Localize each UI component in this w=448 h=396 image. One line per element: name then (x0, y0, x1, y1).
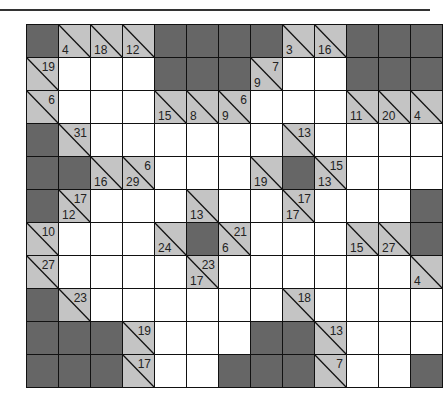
clue-cell: 11 (347, 91, 378, 123)
clue-cell: 19 (123, 322, 154, 354)
entry-cell[interactable] (251, 289, 282, 321)
entry-cell[interactable] (219, 289, 250, 321)
entry-cell[interactable] (123, 289, 154, 321)
entry-cell[interactable] (379, 355, 410, 387)
entry-cell[interactable] (315, 58, 346, 90)
entry-cell[interactable] (283, 58, 314, 90)
entry-cell[interactable] (315, 256, 346, 288)
entry-cell[interactable] (315, 223, 346, 255)
entry-cell[interactable] (251, 223, 282, 255)
entry-cell[interactable] (187, 322, 218, 354)
entry-cell[interactable] (347, 289, 378, 321)
entry-cell[interactable] (91, 289, 122, 321)
entry-cell[interactable] (187, 289, 218, 321)
down-clue: 4 (62, 44, 69, 56)
entry-cell[interactable] (379, 256, 410, 288)
entry-cell[interactable] (219, 124, 250, 156)
entry-cell[interactable] (379, 289, 410, 321)
entry-cell[interactable] (91, 190, 122, 222)
entry-cell[interactable] (123, 256, 154, 288)
across-clue: 18 (298, 292, 311, 304)
block-cell (219, 355, 250, 387)
entry-cell[interactable] (315, 91, 346, 123)
across-clue: 7 (272, 61, 279, 73)
entry-cell[interactable] (283, 256, 314, 288)
clue-cell: 96 (219, 91, 250, 123)
entry-cell[interactable] (283, 91, 314, 123)
entry-cell[interactable] (219, 256, 250, 288)
across-clue: 13 (330, 325, 343, 337)
entry-cell[interactable] (155, 289, 186, 321)
across-clue: 6 (240, 94, 247, 106)
entry-cell[interactable] (315, 190, 346, 222)
clue-cell: 4 (411, 256, 442, 288)
block-cell (411, 25, 442, 57)
entry-cell[interactable] (59, 223, 90, 255)
across-clue: 7 (336, 358, 343, 370)
entry-cell[interactable] (283, 223, 314, 255)
entry-cell[interactable] (155, 355, 186, 387)
down-clue: 13 (318, 176, 331, 188)
block-cell (283, 322, 314, 354)
entry-cell[interactable] (251, 91, 282, 123)
entry-cell[interactable] (379, 157, 410, 189)
entry-cell[interactable] (251, 190, 282, 222)
entry-cell[interactable] (91, 91, 122, 123)
down-clue: 16 (94, 176, 107, 188)
entry-cell[interactable] (155, 190, 186, 222)
entry-cell[interactable] (155, 157, 186, 189)
entry-cell[interactable] (411, 124, 442, 156)
clue-cell: 4 (59, 25, 90, 57)
down-clue: 19 (254, 176, 267, 188)
entry-cell[interactable] (251, 124, 282, 156)
entry-cell[interactable] (347, 157, 378, 189)
entry-cell[interactable] (59, 91, 90, 123)
down-clue: 18 (94, 44, 107, 56)
entry-cell[interactable] (347, 124, 378, 156)
clue-cell: 1217 (59, 190, 90, 222)
entry-cell[interactable] (123, 91, 154, 123)
entry-cell[interactable] (187, 157, 218, 189)
entry-cell[interactable] (315, 124, 346, 156)
entry-cell[interactable] (155, 256, 186, 288)
entry-cell[interactable] (91, 256, 122, 288)
across-clue: 6 (144, 160, 151, 172)
block-cell (411, 58, 442, 90)
entry-cell[interactable] (315, 289, 346, 321)
entry-cell[interactable] (219, 157, 250, 189)
entry-cell[interactable] (123, 223, 154, 255)
entry-cell[interactable] (59, 58, 90, 90)
entry-cell[interactable] (123, 124, 154, 156)
across-clue: 19 (138, 325, 151, 337)
entry-cell[interactable] (123, 190, 154, 222)
entry-cell[interactable] (219, 322, 250, 354)
clue-cell: 27 (27, 256, 58, 288)
entry-cell[interactable] (379, 124, 410, 156)
entry-cell[interactable] (347, 355, 378, 387)
entry-cell[interactable] (187, 355, 218, 387)
entry-cell[interactable] (155, 124, 186, 156)
clue-cell: 1717 (283, 190, 314, 222)
kakuro-grid: 4181231619976158961120431131629619131512… (26, 24, 443, 388)
entry-cell[interactable] (347, 190, 378, 222)
clue-cell: 10 (27, 223, 58, 255)
entry-cell[interactable] (155, 322, 186, 354)
entry-cell[interactable] (91, 223, 122, 255)
entry-cell[interactable] (379, 322, 410, 354)
entry-cell[interactable] (123, 58, 154, 90)
entry-cell[interactable] (411, 289, 442, 321)
entry-cell[interactable] (59, 256, 90, 288)
entry-cell[interactable] (379, 190, 410, 222)
entry-cell[interactable] (91, 124, 122, 156)
clue-cell: 97 (251, 58, 282, 90)
entry-cell[interactable] (251, 256, 282, 288)
entry-cell[interactable] (347, 322, 378, 354)
entry-cell[interactable] (91, 58, 122, 90)
entry-cell[interactable] (347, 256, 378, 288)
entry-cell[interactable] (411, 157, 442, 189)
across-clue: 15 (330, 160, 343, 172)
clue-cell: 8 (187, 91, 218, 123)
entry-cell[interactable] (411, 322, 442, 354)
entry-cell[interactable] (219, 190, 250, 222)
entry-cell[interactable] (187, 124, 218, 156)
